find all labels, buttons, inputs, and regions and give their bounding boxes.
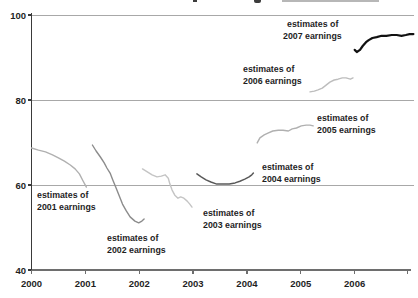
series-line-2005 [257, 125, 313, 143]
y-tick-label-100: 100 [10, 10, 26, 21]
series-line-2002 [92, 145, 144, 223]
y-tick-label-40: 40 [15, 265, 26, 276]
series-line-2004 [197, 173, 254, 184]
chart-plot-area: 1008060402000200120022003200420052006est… [0, 0, 418, 298]
series-line-2006 [310, 78, 353, 92]
earnings-estimates-chart: 1008060402000200120022003200420052006est… [0, 0, 418, 298]
series-label-2005: estimates of2005 earnings [317, 113, 376, 135]
y-tick-label-60: 60 [15, 180, 26, 191]
series-label-2001: estimates of2001 earnings [37, 190, 96, 212]
series-label-2004: estimates of2004 earnings [262, 162, 321, 184]
x-tick-label-2000: 2000 [21, 278, 42, 289]
series-line-2007 [355, 34, 414, 52]
series-line-2003 [143, 169, 193, 207]
y-tick-label-80: 80 [15, 95, 26, 106]
x-tick-label-2003: 2003 [183, 278, 204, 289]
x-tick-label-2002: 2002 [129, 278, 150, 289]
series-label-2003: estimates of2003 earnings [203, 208, 262, 230]
series-label-2006: estimates of2006 earnings [243, 64, 302, 86]
x-tick-label-2004: 2004 [236, 278, 258, 289]
series-label-2002: estimates of2002 earnings [107, 233, 166, 255]
x-tick-label-2001: 2001 [75, 278, 97, 289]
series-line-2001 [32, 148, 87, 187]
x-tick-label-2006: 2006 [344, 278, 365, 289]
series-label-2007: estimates of2007 earnings [283, 19, 342, 41]
x-tick-label-2005: 2005 [290, 278, 312, 289]
